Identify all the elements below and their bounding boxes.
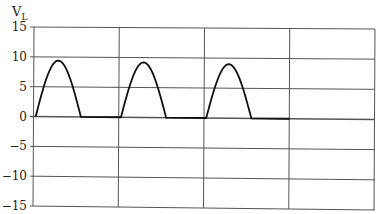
gridline-y-15	[30, 27, 375, 29]
y-tick-label: 10	[12, 50, 27, 64]
y-tick-label: 15	[12, 20, 27, 34]
y-tick-label: 0	[19, 110, 27, 124]
y-axis-label-sub: L	[21, 12, 27, 22]
gridline-x-4	[374, 29, 375, 210]
y-tick-label: −5	[9, 139, 27, 153]
gridline-y-neg15	[30, 206, 375, 210]
y-tick-label: 5	[19, 80, 27, 94]
y-tick-label: −15	[2, 199, 27, 213]
gridline-y-neg10	[30, 176, 375, 180]
waveform-trace	[36, 61, 290, 119]
chart: 151050−5−10−15 VL	[0, 0, 384, 214]
gridline-y-neg5	[30, 146, 375, 149]
chart-plot: 151050−5−10−15 VL	[0, 0, 384, 214]
y-axis-ticks: 151050−5−10−15	[2, 20, 27, 213]
y-axis-label-main: V	[11, 4, 22, 19]
gridline-y-10	[30, 57, 375, 59]
gridline-x-0	[33, 27, 34, 206]
y-tick-label: −10	[2, 169, 27, 183]
vl-waveform	[36, 61, 290, 119]
gridline-y-5	[30, 87, 375, 90]
